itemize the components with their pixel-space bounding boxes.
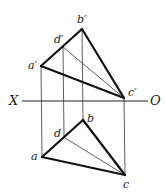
projection-line-d <box>63 47 64 138</box>
projection-diagram: X O b′ d′ a′ c′ b d a c <box>0 0 165 194</box>
label-d-prime: d′ <box>54 33 64 46</box>
front-line-d-c <box>63 47 124 98</box>
label-c-prime: c′ <box>128 86 137 99</box>
label-d: d <box>54 127 61 140</box>
projection-line-a <box>41 66 42 157</box>
axis-label-o: O <box>150 93 161 108</box>
label-b: b <box>87 112 94 125</box>
projection-line-c <box>124 98 125 175</box>
label-c: c <box>123 178 129 191</box>
label-a-prime: a′ <box>28 59 38 72</box>
projection-line-b <box>82 29 83 120</box>
axis-label-x: X <box>8 93 19 108</box>
label-b-prime: b′ <box>77 13 87 26</box>
label-a: a <box>31 150 38 163</box>
